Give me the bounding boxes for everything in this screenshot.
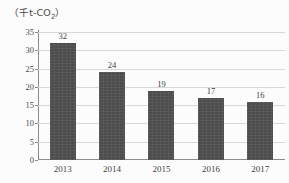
- bar-group: 192015: [137, 32, 186, 160]
- x-tick-label: 2013: [54, 164, 72, 174]
- plot-area: 05101520253035 3220132420141920151720161…: [38, 32, 285, 160]
- bar-value-label: 16: [256, 90, 265, 100]
- y-tick-label: 30: [26, 45, 35, 55]
- unit-label-prefix: （千t-CO: [9, 7, 51, 18]
- bar-group: 162017: [236, 32, 285, 160]
- y-axis-unit-label: （千t-CO2）: [9, 5, 66, 21]
- y-tick-label: 0: [30, 155, 34, 165]
- bar-value-label: 19: [157, 79, 166, 89]
- bar: [148, 91, 174, 160]
- bar-value-label: 32: [58, 31, 67, 41]
- bar-group: 242014: [87, 32, 136, 160]
- y-tick-label: 15: [26, 100, 35, 110]
- x-tick-label: 2016: [202, 164, 220, 174]
- bar-value-label: 17: [207, 86, 216, 96]
- y-tick-label: 25: [26, 64, 35, 74]
- y-tick-label: 35: [26, 27, 35, 37]
- unit-label-suffix: ）: [55, 7, 65, 18]
- y-tick-label: 5: [30, 137, 34, 147]
- bar: [247, 102, 273, 161]
- bar: [99, 72, 125, 160]
- bar-group: 172016: [186, 32, 235, 160]
- bar: [50, 43, 76, 160]
- bar-group: 322013: [38, 32, 87, 160]
- y-tick-label: 10: [26, 118, 35, 128]
- x-tick-label: 2014: [103, 164, 121, 174]
- x-tick-label: 2015: [152, 164, 170, 174]
- y-tick-label: 20: [26, 82, 35, 92]
- y-tick-mark: [35, 160, 38, 161]
- x-tick-label: 2017: [251, 164, 269, 174]
- bar-chart-figure: （千t-CO2） 05101520253035 3220132420141920…: [0, 0, 289, 183]
- bar: [198, 98, 224, 160]
- bar-value-label: 24: [108, 60, 117, 70]
